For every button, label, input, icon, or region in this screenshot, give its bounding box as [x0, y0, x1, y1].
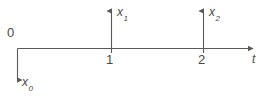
impulse-diagram: 0 1 2 t x0 x1 x2 — [0, 0, 271, 97]
impulse-label-x2-subscript: 2 — [216, 14, 220, 23]
impulse-label-x1-subscript: 1 — [124, 14, 128, 23]
impulse-label-x0-subscript: 0 — [29, 84, 33, 93]
impulse-label-x1: x1 — [117, 6, 127, 21]
axis-origin-label: 0 — [7, 26, 14, 39]
impulse-label-x2: x2 — [209, 6, 219, 21]
impulse-label-x0: x0 — [22, 76, 32, 91]
diagram-canvas — [0, 0, 271, 97]
axis-tick-label-1: 1 — [106, 53, 113, 66]
impulse-label-x1-base: x — [117, 5, 123, 19]
axis-variable-label-t: t — [252, 53, 255, 65]
impulse-label-x0-base: x — [22, 75, 28, 89]
impulse-label-x2-base: x — [209, 5, 215, 19]
axis-tick-label-2: 2 — [198, 53, 205, 66]
